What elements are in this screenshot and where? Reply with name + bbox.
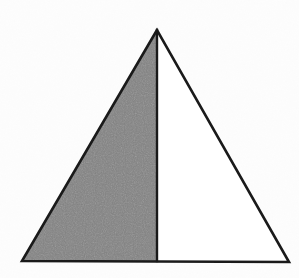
figure-canvas: Isosceles triangle divided by its vertic… (0, 0, 299, 278)
triangle-diagram: Isosceles triangle divided by its vertic… (0, 0, 299, 278)
